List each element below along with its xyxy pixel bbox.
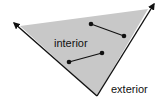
endpoint-dot [89,22,94,27]
endpoint-dot [100,51,105,56]
angle-diagram: interior exterior [0,0,164,105]
endpoint-dot [122,34,127,39]
endpoint-dot [67,60,72,65]
interior-label: interior [54,37,88,49]
exterior-label: exterior [111,83,148,95]
